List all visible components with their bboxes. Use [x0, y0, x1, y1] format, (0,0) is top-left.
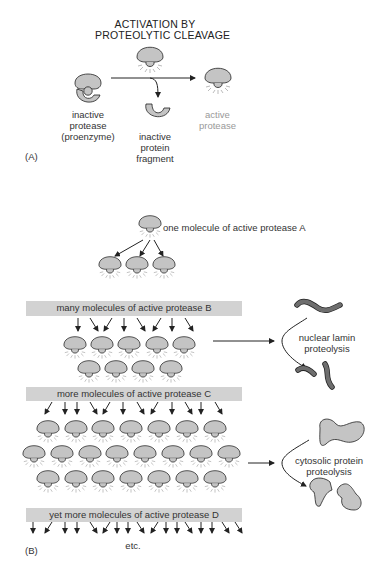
active-protease-molecule-icon	[146, 337, 168, 359]
fragment-label-1: inactive	[125, 131, 185, 142]
active-protease-label-1: active	[190, 109, 245, 120]
active-protease-molecule-icon	[173, 337, 195, 359]
active-protease-molecule-icon	[79, 446, 101, 468]
active-protease-molecule-icon	[204, 421, 226, 443]
cytosolic-label-2: proteolysis	[289, 466, 369, 477]
nuclear-lamin-label-1: nuclear lamin	[292, 332, 362, 343]
cleaving-protease-icon	[137, 47, 163, 73]
active-protease-molecule-icon	[105, 361, 127, 383]
active-protease-molecule-icon	[160, 361, 182, 383]
protease-a-label: one molecule of active protease A	[163, 222, 306, 233]
active-protease-molecule-icon	[51, 446, 73, 468]
active-protease-molecule-icon	[162, 446, 184, 468]
fragment-arrow	[150, 78, 158, 97]
diagram-artwork	[0, 0, 375, 568]
active-protease-molecule-icon	[148, 421, 170, 443]
active-protease-molecule-icon	[204, 471, 226, 493]
active-protease-molecule-icon	[78, 361, 100, 383]
active-protease-molecule-icon	[64, 337, 86, 359]
active-protease-molecule-icon	[65, 471, 87, 493]
active-protease-molecule-icon	[148, 471, 170, 493]
active-protease-molecule-icon	[37, 421, 59, 443]
protease-c-label: more molecules of active protease C	[26, 388, 242, 399]
inactive-protease-label-3: (proenzyme)	[58, 131, 118, 142]
fragment-label-2: protein	[125, 142, 185, 153]
etc-label: etc.	[123, 540, 143, 551]
cascade-arrows-c	[45, 402, 222, 414]
protein-fragment-icon	[146, 104, 170, 117]
panel-a-label: (A)	[25, 151, 38, 162]
active-protease-molecule-icon	[176, 421, 198, 443]
panel-b-label: (B)	[25, 545, 38, 556]
cytosolic-label-1: cytosolic protein	[289, 455, 369, 466]
protease-cascade-diagram: ACTIVATION BY PROTEOLYTIC CLEAVAGE inact…	[0, 0, 375, 568]
protease-b-label: many molecules of active protease B	[26, 302, 242, 313]
active-protease-molecule-icon	[132, 361, 154, 383]
active-protease-molecule-icon	[134, 446, 156, 468]
active-protease-label-2: protease	[190, 120, 245, 131]
active-protease-molecule-icon	[218, 446, 240, 468]
cascade-arrows-b	[78, 318, 193, 331]
active-protease-molecule-icon	[176, 471, 198, 493]
active-protease-molecule-icon	[118, 337, 140, 359]
inactive-protease-label-2: protease	[58, 120, 118, 131]
cascade-arrows-d	[33, 522, 242, 533]
fragment-label-3: fragment	[125, 153, 185, 164]
protease-b-bar: many molecules of active protease B	[26, 301, 242, 316]
active-protease-molecule-icon	[65, 421, 87, 443]
protease-d-bar: yet more molecules of active protease D	[26, 508, 242, 522]
inactive-protease-label-1: inactive	[58, 109, 118, 120]
protease-d-label: yet more molecules of active protease D	[26, 509, 242, 520]
active-protease-icon	[205, 68, 231, 94]
active-protease-molecule-icon	[92, 471, 114, 493]
nuclear-lamin-label-2: proteolysis	[292, 343, 362, 354]
cascade-arrows-a	[115, 240, 163, 256]
active-protease-molecule-icon	[106, 446, 128, 468]
protease-c-bar: more molecules of active protease C	[26, 387, 242, 401]
active-protease-molecule-icon	[190, 446, 212, 468]
active-protease-molecule-icon	[37, 471, 59, 493]
active-protease-molecule-icon	[99, 257, 121, 279]
active-protease-molecule-icon	[23, 446, 45, 468]
active-protease-molecule-icon	[91, 337, 113, 359]
protease-molecules	[23, 216, 240, 493]
proenzyme-icon	[75, 74, 101, 102]
active-protease-molecule-icon	[120, 471, 142, 493]
active-protease-molecule-icon	[120, 421, 142, 443]
active-protease-molecule-icon	[153, 257, 175, 279]
active-protease-molecule-icon	[92, 421, 114, 443]
panel-a-title-line2: PROTEOLYTIC CLEAVAGE	[95, 30, 215, 41]
active-protease-molecule-icon	[126, 257, 148, 279]
active-protease-molecule-icon	[139, 216, 161, 238]
